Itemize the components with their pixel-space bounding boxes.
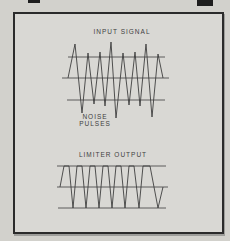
input-signal-plot [62,42,169,118]
noise-pulses-label-line1: NOISE [82,113,107,120]
noise-pulses-label-line2: PULSES [79,120,111,127]
signal-diagram [0,0,230,241]
limiter-output-label: LIMITER OUTPUT [78,151,148,158]
input-signal-label: INPUT SIGNAL [88,28,156,35]
noise-pulses-label: NOISE PULSES [78,113,112,127]
limiter-output-plot [57,166,168,208]
